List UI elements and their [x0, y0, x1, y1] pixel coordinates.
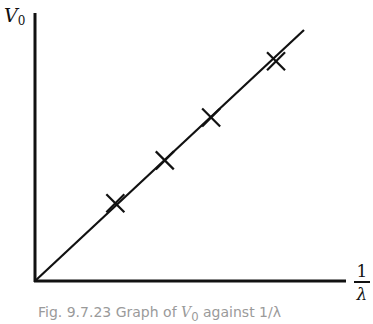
caption-prefix: Fig. 9.7.23 Graph of	[38, 304, 181, 320]
y-axis-label: V0	[4, 6, 25, 27]
y-axis-subscript: 0	[18, 14, 26, 28]
y-axis-symbol: V	[4, 4, 18, 26]
x-axis-label: 1 λ	[352, 262, 372, 303]
data-point-cross	[106, 194, 124, 212]
caption-subscript: 0	[191, 310, 198, 324]
x-axis-numerator: 1	[352, 262, 372, 280]
x-axis-denominator: λ	[352, 285, 372, 303]
data-point-cross	[202, 109, 220, 127]
data-point-cross	[156, 151, 174, 169]
caption-symbol: V	[181, 304, 191, 320]
figure-caption: Fig. 9.7.23 Graph of V0 against 1/λ	[38, 305, 281, 323]
caption-suffix: against 1/λ	[199, 304, 281, 320]
fraction-bar	[354, 281, 370, 283]
